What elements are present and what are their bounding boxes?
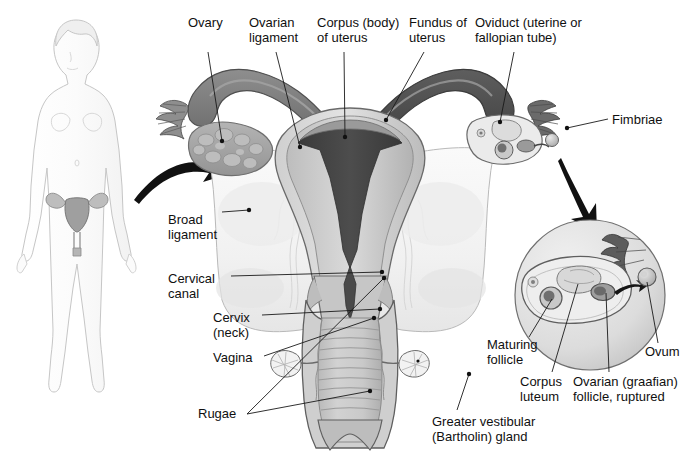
label-vagina: Vagina: [213, 351, 253, 366]
label-ovary: Ovary: [188, 16, 223, 31]
label-layer: Ovary Ovarian ligament Corpus (body) of …: [0, 0, 698, 462]
label-greater-vestibular: Greater vestibular (Bartholin) gland: [432, 415, 535, 444]
label-cervix-neck: Cervix (neck): [213, 311, 250, 340]
label-ovum: Ovum: [645, 345, 680, 360]
anatomy-figure: Ovary Ovarian ligament Corpus (body) of …: [0, 0, 698, 462]
label-corpus-luteum: Corpus luteum: [520, 375, 562, 404]
label-corpus-uterus: Corpus (body) of uterus: [317, 16, 399, 45]
label-maturing-follicle: Maturing follicle: [487, 338, 538, 367]
label-ovarian-ligament: Ovarian ligament: [249, 16, 298, 45]
label-fimbriae: Fimbriae: [612, 113, 663, 128]
label-cervical-canal: Cervical canal: [168, 272, 215, 301]
label-ovarian-graafian: Ovarian (graafian) follicle, ruptured: [573, 375, 678, 404]
label-rugae: Rugae: [198, 407, 236, 422]
label-fundus-uterus: Fundus of uterus: [409, 16, 467, 45]
label-broad-ligament: Broad ligament: [168, 213, 217, 242]
label-oviduct: Oviduct (uterine or fallopian tube): [475, 16, 582, 45]
